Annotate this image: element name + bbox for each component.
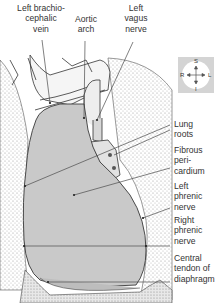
compass-superior: S <box>194 58 198 64</box>
label-fibrous-pericardium: Fibrous peri- cardium <box>174 145 205 176</box>
label-line: Central <box>174 253 215 263</box>
label-line: phrenic <box>174 191 202 201</box>
label-line: Right <box>174 215 202 225</box>
orientation-compass: S I R L <box>178 57 214 93</box>
label-line: roots <box>174 129 193 139</box>
label-line: cardium <box>174 166 205 176</box>
compass-right: R <box>180 72 184 78</box>
label-line: diaphragm <box>174 274 215 284</box>
compass-left: L <box>208 72 211 78</box>
label-line: phrenic <box>174 225 202 235</box>
label-line: tendon of <box>174 263 215 273</box>
label-right-phrenic-nerve: Right phrenic nerve <box>174 215 202 246</box>
label-line: arch <box>68 24 104 34</box>
label-line: nerve <box>118 24 154 34</box>
label-line: Left <box>118 3 154 13</box>
label-line: vagus <box>118 13 154 23</box>
label-left-brachiocephalic-vein: Left brachio- cephalic vein <box>6 3 76 34</box>
label-line: cephalic <box>6 13 76 23</box>
label-lung-roots: Lung roots <box>174 119 193 140</box>
label-left-phrenic-nerve: Left phrenic nerve <box>174 181 202 212</box>
label-line: Lung <box>174 119 193 129</box>
label-line: Left <box>174 181 202 191</box>
label-left-vagus-nerve: Left vagus nerve <box>118 3 154 34</box>
label-line: nerve <box>174 236 202 246</box>
label-central-tendon: Central tendon of diaphragm <box>174 253 215 284</box>
label-line: peri- <box>174 155 205 165</box>
label-line: nerve <box>174 202 202 212</box>
label-line: Left brachio- <box>6 3 76 13</box>
label-line: Aortic <box>68 14 104 24</box>
label-line: Fibrous <box>174 145 205 155</box>
label-line: vein <box>6 24 76 34</box>
compass-inferior: I <box>195 86 197 92</box>
label-aortic-arch: Aortic arch <box>68 14 104 35</box>
